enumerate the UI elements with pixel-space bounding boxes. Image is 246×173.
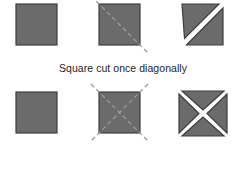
- figure-separated-triangles-once: [172, 0, 238, 58]
- figure-whole-square-once: [8, 0, 70, 58]
- figure-square-with-cut-line-once: [88, 0, 154, 58]
- separated-triangles-svg: [172, 88, 238, 146]
- whole-square-svg: [8, 0, 70, 58]
- figure-separated-triangles-twice: [172, 88, 238, 146]
- figure-square-with-cut-lines-twice: [88, 88, 154, 146]
- square-shape: [16, 4, 57, 45]
- figure-whole-square-twice: [8, 88, 70, 146]
- square-with-cut-line-svg: [88, 0, 154, 58]
- diagram-row-square-cut-twice: Square cut twice diagonally: [0, 88, 246, 173]
- square-shape: [16, 92, 57, 133]
- diagram-canvas: Square cut once diagonally: [0, 0, 246, 173]
- separated-triangles-svg: [172, 0, 238, 58]
- caption-square-cut-once: Square cut once diagonally: [0, 62, 246, 74]
- diagram-row-square-cut-once: Square cut once diagonally: [0, 0, 246, 86]
- whole-square-svg: [8, 88, 70, 146]
- square-with-cut-lines-svg: [88, 88, 154, 146]
